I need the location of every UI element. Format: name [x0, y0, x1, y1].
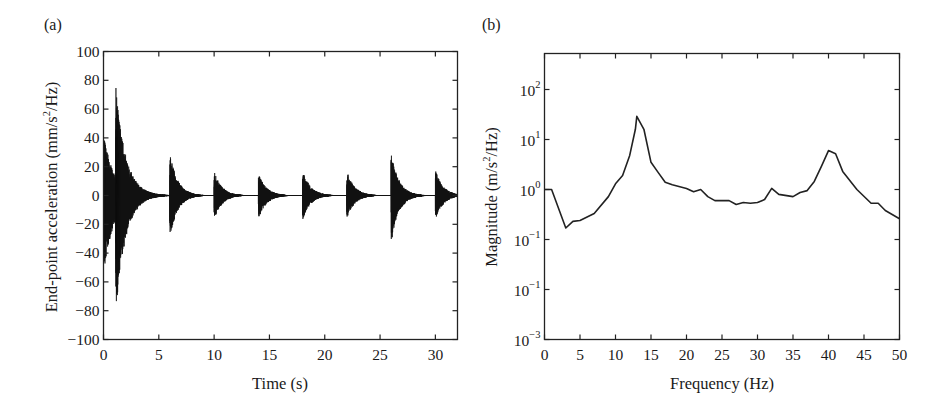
x-tick-label: 45 — [856, 346, 872, 363]
panel-label-b: (b) — [482, 16, 501, 34]
chart-b-y-axis-label: Magnitude (m/s2/Hz) — [481, 127, 501, 267]
x-tick-label: 35 — [785, 346, 801, 363]
y-tick-label: 10−3 — [514, 329, 541, 349]
chart-b-y-tick-labels: 10210110010−110−110−3 — [514, 79, 541, 349]
y-tick-label: 80 — [84, 71, 100, 88]
y-tick-label: 10−1 — [514, 229, 541, 249]
chart-b-ticks — [545, 54, 900, 340]
x-tick-label: 5 — [155, 346, 163, 363]
panel-label-a: (a) — [44, 16, 62, 34]
y-tick-label: 100 — [520, 179, 541, 199]
x-tick-label: 10 — [206, 346, 222, 363]
chart-a-x-axis-label: Time (s) — [252, 374, 308, 393]
x-tick-label: 50 — [892, 346, 908, 363]
y-tick-label: −60 — [75, 273, 99, 290]
chart-b-spectrum-line — [545, 116, 900, 228]
x-tick-label: 20 — [317, 346, 333, 363]
chart-a-y-axis-label: End-point acceleration (mm/s2/Hz) — [41, 82, 61, 313]
y-tick-label: 60 — [84, 100, 100, 117]
x-tick-label: 25 — [714, 346, 730, 363]
x-tick-label: 5 — [576, 346, 584, 363]
chart-a-signal — [104, 88, 458, 301]
x-tick-label: 0 — [100, 346, 108, 363]
x-tick-label: 25 — [372, 346, 388, 363]
y-tick-label: −100 — [68, 331, 100, 348]
y-tick-label: 10−1 — [514, 279, 541, 299]
chart-a-x-tick-labels: 051015202530 — [100, 346, 444, 363]
x-tick-label: 20 — [679, 346, 695, 363]
chart-b: (b) 10210110010−110−110−3 05101520253035… — [481, 16, 908, 393]
chart-b-axes-box — [545, 54, 900, 340]
y-tick-label: 20 — [84, 158, 100, 175]
y-tick-label: 101 — [520, 129, 541, 149]
x-tick-label: 15 — [262, 346, 278, 363]
y-tick-label: −80 — [75, 302, 99, 319]
x-tick-label: 0 — [541, 346, 549, 363]
x-tick-label: 30 — [428, 346, 444, 363]
x-tick-label: 40 — [821, 346, 837, 363]
chart-a: (a) 100806040200−20−40−60−80−100 0510152… — [41, 16, 458, 393]
y-tick-label: 102 — [520, 79, 541, 99]
y-tick-label: −40 — [75, 244, 99, 261]
y-tick-label: 100 — [76, 43, 100, 60]
chart-b-x-axis-label: Frequency (Hz) — [670, 374, 774, 393]
chart-b-x-tick-labels: 05101520253035404550 — [541, 346, 908, 363]
y-tick-label: −20 — [75, 215, 99, 232]
chart-a-y-tick-labels: 100806040200−20−40−60−80−100 — [68, 43, 100, 348]
y-tick-label: 40 — [84, 129, 100, 146]
x-tick-label: 10 — [608, 346, 624, 363]
y-tick-label: 0 — [92, 187, 100, 204]
x-tick-label: 30 — [750, 346, 766, 363]
x-tick-label: 15 — [643, 346, 659, 363]
figure: (a) 100806040200−20−40−60−80−100 0510152… — [0, 0, 941, 415]
